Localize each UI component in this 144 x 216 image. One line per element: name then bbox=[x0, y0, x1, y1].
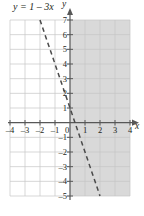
y-tick-label--3: –3 bbox=[51, 162, 67, 172]
x-tick-label-3: 3 bbox=[110, 125, 120, 135]
x-tick-label-1: 1 bbox=[80, 125, 90, 135]
y-tick-label--4: –4 bbox=[51, 176, 67, 186]
equation-annotation: y = 1 – 3x bbox=[13, 1, 54, 12]
x-axis-name-label: x bbox=[135, 121, 139, 131]
x-tick-label-4: 4 bbox=[125, 125, 135, 135]
y-tick-label--5: –5 bbox=[51, 191, 67, 201]
graph-figure: y = 1 – 3x y x –4 –3 –2 –1 0 1 2 3 4 7 6… bbox=[0, 0, 144, 216]
x-tick-label--3: –3 bbox=[17, 125, 33, 135]
y-tick-label-6: 6 bbox=[55, 30, 67, 40]
y-tick-label-2: 2 bbox=[55, 88, 67, 98]
coordinate-plane-svg bbox=[0, 0, 144, 216]
x-tick-label-2: 2 bbox=[95, 125, 105, 135]
y-tick-label-7: 7 bbox=[55, 15, 67, 25]
x-tick-label--4: –4 bbox=[2, 125, 18, 135]
x-tick-label--2: –2 bbox=[32, 125, 48, 135]
y-tick-label--1: –1 bbox=[51, 132, 67, 142]
y-tick-label--2: –2 bbox=[51, 147, 67, 157]
y-tick-label-3: 3 bbox=[55, 74, 67, 84]
y-tick-label-4: 4 bbox=[55, 59, 67, 69]
y-tick-label-1: 1 bbox=[55, 103, 67, 113]
y-axis-name-label: y bbox=[62, 0, 66, 9]
y-tick-label-5: 5 bbox=[55, 44, 67, 54]
